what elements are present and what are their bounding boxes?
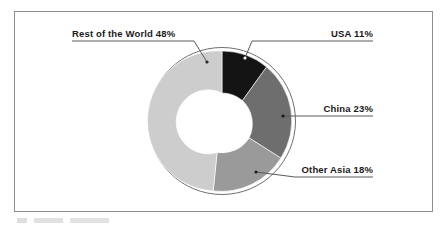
caption-artifact	[17, 218, 109, 223]
label-rest-of-world: Rest of the World 48%	[72, 28, 176, 39]
label-china: China 23%	[324, 103, 374, 114]
leader-dot-usa	[243, 56, 246, 59]
figure-root: Rest of the World 48% USA 11% China 23% …	[0, 0, 445, 226]
label-usa: USA 11%	[331, 28, 373, 39]
leader-dot-rest-of-world	[205, 60, 208, 63]
slice-rest-of-world[interactable]	[148, 51, 222, 191]
leader-line-usa	[245, 41, 373, 58]
donut-chart: Rest of the World 48% USA 11% China 23% …	[0, 0, 445, 226]
leader-dot-china	[281, 114, 284, 117]
leader-dot-other-asia	[254, 170, 257, 173]
label-other-asia: Other Asia 18%	[302, 164, 374, 175]
